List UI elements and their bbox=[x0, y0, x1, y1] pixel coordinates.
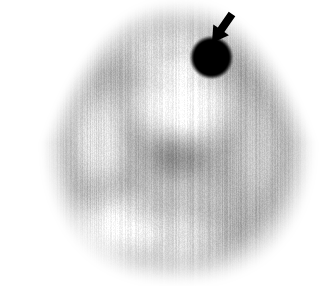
tomographic-slice-image bbox=[0, 0, 326, 286]
scan-image-viewport bbox=[0, 0, 326, 286]
